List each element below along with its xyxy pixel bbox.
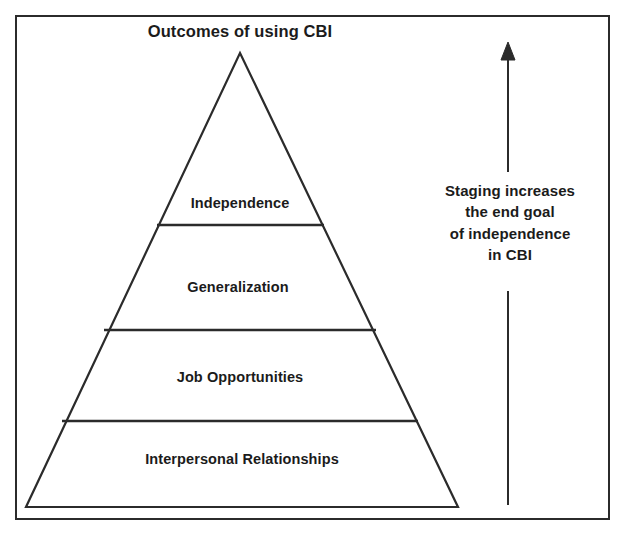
pyramid-tier-label-job-opportunities: Job Opportunities [130,369,350,385]
annotation-line-4: in CBI [412,244,608,265]
annotation-line-1: Staging increases [412,180,608,201]
pyramid-tier-label-generalization: Generalization [138,279,338,295]
annotation-caption: Staging increases the end goal of indepe… [412,180,608,265]
page-title: Outcomes of using CBI [0,22,480,40]
annotation-line-2: the end goal [412,201,608,222]
figure-root: Outcomes of using CBI Independence Gener… [0,0,625,533]
annotation-line-3: of independence [412,223,608,244]
pyramid-tier-label-independence: Independence [140,195,340,211]
pyramid-tier-label-interpersonal-relationships: Interpersonal Relationships [92,451,392,467]
